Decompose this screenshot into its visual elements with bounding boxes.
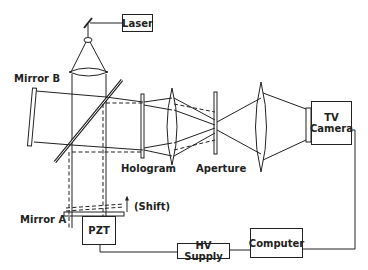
hv-supply-box: HV Supply: [177, 243, 230, 259]
laser-box: Laser: [122, 14, 153, 32]
tv-camera-line2: Camera: [310, 123, 353, 134]
hologram-label: Hologram: [121, 163, 176, 174]
optical-setup-diagram: Laser Mirror B TV Camera Hologram Apertu…: [0, 0, 368, 270]
mirror-b-label: Mirror B: [14, 73, 60, 84]
mirror-a-label: Mirror A: [20, 214, 66, 225]
tv-camera-line1: TV: [324, 112, 339, 123]
pzt-box: PZT: [82, 216, 116, 245]
aperture-label: Aperture: [196, 163, 246, 174]
shift-label: (Shift): [134, 201, 170, 212]
tv-camera-box: TV Camera: [311, 101, 352, 145]
computer-box: Computer: [250, 228, 303, 258]
